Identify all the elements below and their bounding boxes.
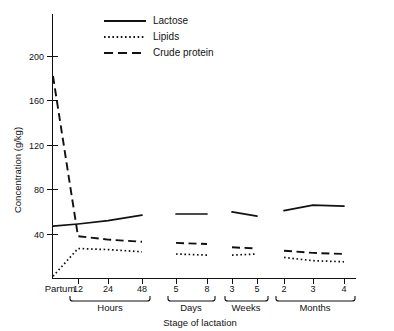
- y-tick-label-80: 80: [34, 185, 44, 195]
- y-tick-label-120: 120: [29, 141, 44, 151]
- group-label-days: Days: [180, 302, 202, 313]
- group-label-hours: Hours: [97, 302, 123, 313]
- series-crude-protein-segment-1: [176, 243, 207, 244]
- legend-label-lipids: Lipids: [153, 31, 179, 42]
- x-label-partum: Partum: [45, 283, 76, 294]
- y-tick-label-200: 200: [29, 52, 44, 62]
- y-axis-title: Concentration (g/kg): [12, 127, 23, 213]
- x-axis-title: Stage of lactation: [163, 317, 236, 328]
- legend-label-crude-protein: Crude protein: [153, 47, 214, 58]
- x-tick-label-hours-48: 48: [137, 284, 147, 294]
- y-tick-label-40: 40: [34, 230, 44, 240]
- x-tick-label-hours-24: 24: [103, 284, 113, 294]
- x-tick-label-weeks-5: 5: [254, 284, 259, 294]
- x-tick-label-days-8: 8: [204, 284, 209, 294]
- figure-container: Lactose Lipids Crude protein 200 160: [0, 0, 394, 331]
- group-label-weeks: Weeks: [232, 302, 261, 313]
- y-tick-label-160: 160: [29, 96, 44, 106]
- x-tick-label-months-3: 3: [310, 284, 315, 294]
- x-tick-label-weeks-3: 3: [229, 284, 234, 294]
- legend-label-lactose: Lactose: [153, 15, 188, 26]
- line-chart: Lactose Lipids Crude protein 200 160: [0, 0, 394, 331]
- x-tick-label-months-4: 4: [341, 284, 346, 294]
- group-label-months: Months: [299, 302, 330, 313]
- x-tick-label-days-5: 5: [173, 284, 178, 294]
- x-tick-label-months-2: 2: [281, 284, 286, 294]
